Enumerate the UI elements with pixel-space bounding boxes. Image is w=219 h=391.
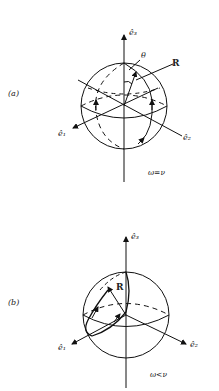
e1-axis [72,315,126,344]
theta-arc [124,81,132,84]
panel-a-label: (a) [8,89,19,98]
panel-b-label: (b) [8,298,19,307]
panel-b-R-label: R [116,282,123,292]
panel-b-condition: ω<ν [150,370,167,379]
panel-a-e3-label: ê₃ [129,28,137,37]
panel-b-e3-label: ê₃ [131,232,139,241]
panel-a-theta-label: θ [141,51,146,60]
panel-a-R-label: R [172,58,179,68]
diagram-canvas [0,0,219,391]
panel-b-e2-label: ê₂ [190,340,198,349]
panel-a-axes [73,35,182,182]
panel-a-e2-label: ê₂ [183,133,191,142]
panel-b-e1-label: ê₁ [58,343,66,352]
panel-a-condition: ω=ν [148,168,165,177]
e2-axis [126,315,186,344]
panel-a-e1-label: ê₁ [58,129,66,138]
